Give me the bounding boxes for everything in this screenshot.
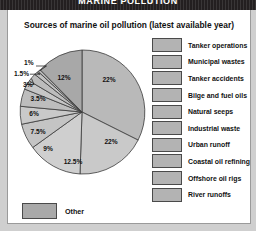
title-bar: MARINE POLLUTION — [0, 0, 256, 10]
legend-item-label: Tanker accidents — [188, 75, 244, 82]
pie-label-22b: 22% — [104, 138, 117, 145]
pie-label-6: 6% — [29, 110, 39, 117]
legend-item-river-runoffs[interactable]: River runoffs — [152, 186, 248, 203]
legend-item-label: Bilge and fuel oils — [188, 92, 247, 99]
pie-label-12-5: 12.5% — [64, 158, 83, 165]
legend-item-tanker-accidents[interactable]: Tanker accidents — [152, 70, 248, 87]
legend-swatch-icon — [152, 121, 182, 135]
legend: Tanker operations Municipal wastes Tanke… — [152, 37, 248, 203]
chart-subtitle: Sources of marine oil pollution (latest … — [8, 20, 250, 30]
legend-item-other[interactable]: Other — [22, 203, 84, 219]
legend-item-bilge-and-fuel-oils[interactable]: Bilge and fuel oils — [152, 87, 248, 104]
chart-screenshot: MARINE POLLUTION Sources of marine oil p… — [0, 0, 256, 231]
pie-label-3: 3% — [23, 81, 33, 88]
pie-label-12: 12% — [57, 74, 70, 81]
legend-item-label: Coastal oil refining — [188, 158, 250, 165]
legend-swatch-icon — [152, 38, 182, 52]
legend-swatch-icon — [152, 171, 182, 185]
legend-item-offshore-oil-rigs[interactable]: Offshore oil rigs — [152, 170, 248, 187]
pie-slices — [20, 50, 145, 174]
legend-swatch-icon — [152, 88, 182, 102]
pie-label-1-5: 1.5% — [14, 70, 29, 77]
pie-label-9: 9% — [43, 145, 53, 152]
legend-item-urban-runoff[interactable]: Urban runoff — [152, 137, 248, 154]
legend-item-industrial-waste[interactable]: Industrial waste — [152, 120, 248, 137]
legend-swatch-icon — [22, 203, 57, 219]
legend-swatch-icon — [152, 154, 182, 168]
legend-item-label: Urban runoff — [188, 141, 230, 148]
legend-swatch-icon — [152, 55, 182, 69]
legend-item-label: Tanker operations — [188, 42, 247, 49]
legend-item-tanker-operations[interactable]: Tanker operations — [152, 37, 248, 54]
legend-swatch-icon — [152, 71, 182, 85]
chart-panel: Sources of marine oil pollution (latest … — [7, 10, 251, 224]
legend-swatch-icon — [152, 138, 182, 152]
legend-item-label: Offshore oil rigs — [188, 175, 241, 182]
pie-label-3-5: 3.5% — [30, 95, 45, 102]
pie-label-1: 1% — [24, 59, 34, 66]
legend-item-label: River runoffs — [188, 191, 231, 198]
legend-item-natural-seeps[interactable]: Natural seeps — [152, 103, 248, 120]
legend-item-label: Other — [65, 207, 84, 216]
legend-swatch-icon — [152, 188, 182, 202]
legend-item-label: Natural seeps — [188, 108, 233, 115]
pie-chart-svg: 22% 22% 12.5% 9% 7.5% 6% 3.5% 3% 1.5% 1%… — [12, 36, 152, 184]
pie-label-22a: 22% — [102, 76, 115, 83]
legend-swatch-icon — [152, 105, 182, 119]
legend-item-label: Industrial waste — [188, 125, 240, 132]
title-bar-texture — [0, 0, 256, 10]
legend-item-label: Municipal wastes — [188, 58, 245, 65]
legend-item-municipal-wastes[interactable]: Municipal wastes — [152, 54, 248, 71]
legend-item-coastal-oil-refining[interactable]: Coastal oil refining — [152, 153, 248, 170]
pie-chart: 22% 22% 12.5% 9% 7.5% 6% 3.5% 3% 1.5% 1%… — [12, 36, 152, 184]
pie-label-7-5: 7.5% — [30, 128, 45, 135]
